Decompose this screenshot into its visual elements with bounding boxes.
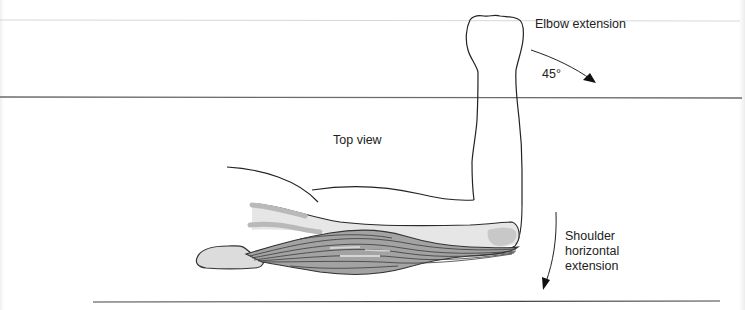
shoulder-horizontal-extension-label: Shoulder horizontal extension (565, 229, 645, 274)
reference-plane-line (0, 97, 742, 98)
elbow-extension-label: Elbow extension (535, 17, 626, 32)
forearm-and-fist-contour (466, 15, 523, 205)
shoulder-extension-arrowhead (542, 277, 550, 290)
bottom-rule-line (93, 301, 720, 302)
torso-contour (227, 167, 318, 202)
shoulder-extension-arrow (546, 212, 556, 282)
shoulder-label-line-2: horizontal (565, 244, 645, 259)
top-view-label: Top view (333, 133, 382, 148)
upper-arm-top-contour (312, 187, 474, 201)
top-rule-line (0, 20, 740, 21)
shoulder-label-line-3: extension (565, 259, 645, 274)
elbow-extension-arrow (531, 50, 592, 80)
elbow-extension-arrowhead (583, 73, 596, 83)
anatomy-diagram: Elbow extension 45° Top view Shoulder ho… (0, 0, 745, 310)
angle-label: 45° (542, 67, 561, 82)
shoulder-label-line-1: Shoulder (565, 229, 645, 244)
